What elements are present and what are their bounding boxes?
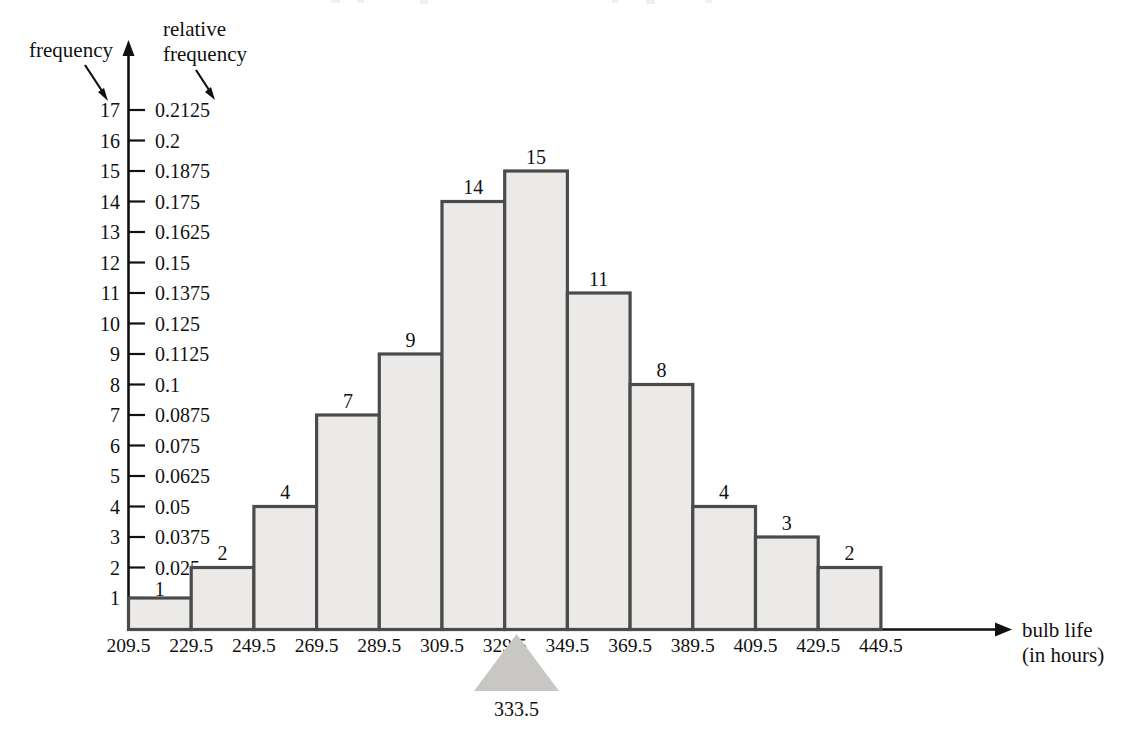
- x-axis-name-group: bulb life (in hours): [1022, 618, 1104, 667]
- bar-label: 14: [463, 176, 483, 198]
- bar-label: 9: [406, 329, 416, 351]
- bar-label: 11: [589, 268, 608, 290]
- relative-frequency-axis-label-line1: relative: [163, 17, 226, 41]
- y-tick-freq: 7: [110, 404, 120, 426]
- y-tick-relfreq: 0.075: [155, 435, 200, 457]
- y-tick-relfreq: 0.1375: [155, 282, 210, 304]
- y-tick-freq: 10: [100, 313, 120, 335]
- y-tick-freq: 16: [100, 130, 120, 152]
- histogram-bar: [379, 354, 442, 630]
- histogram-bars: [129, 171, 881, 630]
- x-tick-label: 229.5: [169, 635, 213, 656]
- top-edge-scan-artifact: [331, 0, 712, 4]
- y-tick-freq: 2: [110, 557, 120, 579]
- x-tick-label: 349.5: [545, 635, 589, 656]
- bar-label: 8: [656, 359, 666, 381]
- y-axis-ticks: [129, 110, 146, 598]
- x-axis-label-line2: (in hours): [1022, 643, 1104, 667]
- y-tick-relfreq: 0.2125: [155, 99, 210, 121]
- bar-label: 4: [280, 481, 290, 503]
- y-axis-frequency-tick-labels: 17 16 15 14 13 12 11 10 9 8 7 6 5 4 3 2 …: [100, 99, 120, 609]
- y-tick-relfreq: 0.0875: [155, 404, 210, 426]
- y-tick-freq: 15: [100, 160, 120, 182]
- y-tick-freq: 11: [101, 282, 120, 304]
- y-tick-relfreq: 0.1875: [155, 160, 210, 182]
- y-tick-relfreq: 0.1: [155, 374, 180, 396]
- x-tick-label: 289.5: [357, 635, 401, 656]
- y-tick-freq: 13: [100, 221, 120, 243]
- bar-label: 15: [526, 146, 546, 168]
- x-tick-label: 449.5: [859, 635, 903, 656]
- y-tick-freq: 8: [110, 374, 120, 396]
- y-tick-freq: 1: [110, 587, 120, 609]
- histogram-bar: [129, 598, 192, 630]
- x-tick-label: 369.5: [608, 635, 652, 656]
- histogram-figure: 17 16 15 14 13 12 11 10 9 8 7 6 5 4 3 2 …: [0, 0, 1137, 735]
- histogram-bar: [442, 202, 505, 630]
- x-tick-label: 209.5: [107, 635, 151, 656]
- x-axis-label-line1: bulb life: [1022, 618, 1093, 642]
- histogram-bar: [191, 568, 254, 630]
- x-tick-label: 249.5: [232, 635, 276, 656]
- frequency-axis-label: frequency: [29, 38, 113, 62]
- y-tick-relfreq: 0.125: [155, 313, 200, 335]
- y-tick-freq: 9: [110, 343, 120, 365]
- histogram-bar: [567, 293, 630, 630]
- y-tick-freq: 14: [100, 191, 120, 213]
- y-tick-freq: 5: [110, 465, 120, 487]
- y-axis-relative-frequency-tick-labels: 0.2125 0.2 0.1875 0.175 0.1625 0.15 0.13…: [155, 99, 210, 579]
- y-tick-freq: 3: [110, 526, 120, 548]
- bar-label: 2: [218, 542, 228, 564]
- x-tick-label: 429.5: [796, 635, 840, 656]
- bar-label: 1: [155, 578, 165, 600]
- y-tick-relfreq: 0.1625: [155, 221, 210, 243]
- y-tick-freq: 6: [110, 435, 120, 457]
- left-axis-name-group: frequency: [29, 38, 113, 101]
- y-tick-relfreq: 0.05: [155, 496, 190, 518]
- y-tick-relfreq: 0.0375: [155, 526, 210, 548]
- histogram-bar: [317, 415, 380, 630]
- y-tick-relfreq: 0.1125: [155, 343, 209, 365]
- x-tick-label: 409.5: [734, 635, 778, 656]
- y-tick-freq: 17: [100, 99, 120, 121]
- y-tick-freq: 12: [100, 252, 120, 274]
- fulcrum-value-label: 333.5: [494, 698, 539, 720]
- histogram-bar: [693, 507, 756, 630]
- y-tick-relfreq: 0.15: [155, 252, 190, 274]
- y-tick-relfreq: 0.0625: [155, 465, 210, 487]
- y-tick-relfreq: 0.2: [155, 130, 180, 152]
- x-tick-label: 269.5: [295, 635, 339, 656]
- x-tick-label: 309.5: [420, 635, 464, 656]
- right-axis-name-group: relative frequency: [163, 17, 247, 100]
- x-tick-label: 389.5: [671, 635, 715, 656]
- bar-label: 7: [343, 390, 353, 412]
- y-tick-relfreq: 0.175: [155, 191, 200, 213]
- y-axis: [123, 40, 135, 629]
- bar-label: 2: [845, 542, 855, 564]
- figure-canvas: 17 16 15 14 13 12 11 10 9 8 7 6 5 4 3 2 …: [0, 0, 1137, 735]
- histogram-bar: [254, 507, 317, 630]
- bar-label: 4: [719, 481, 729, 503]
- bar-label: 3: [782, 512, 792, 534]
- histogram-bar: [818, 568, 881, 630]
- y-tick-freq: 4: [110, 496, 120, 518]
- histogram-bar: [756, 537, 819, 630]
- relative-frequency-axis-label-line2: frequency: [163, 42, 247, 66]
- histogram-bar: [630, 385, 693, 630]
- histogram-bar: [505, 171, 568, 630]
